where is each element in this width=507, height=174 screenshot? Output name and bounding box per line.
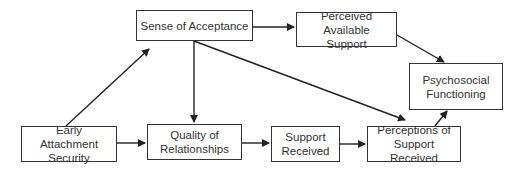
- node-quality-of-relationships: Quality of Relationships: [147, 124, 242, 160]
- node-support-received: Support Received: [271, 126, 340, 162]
- node-label: Sense of Acceptance: [140, 19, 248, 33]
- node-perceptions-of-support-received: Perceptions of Support Received: [367, 126, 461, 162]
- edge-perceived-available-to-psychosocial: [397, 35, 444, 62]
- node-label: Early Attachment Security: [26, 123, 112, 165]
- node-label: Psychosocial Functioning: [418, 73, 494, 101]
- node-psychosocial-functioning: Psychosocial Functioning: [409, 63, 503, 110]
- edge-acceptance-to-perceptions: [194, 41, 405, 120]
- node-label: Quality of Relationships: [155, 128, 235, 156]
- node-label: Perceived Available Support: [303, 9, 390, 51]
- node-perceived-available-support: Perceived Available Support: [296, 12, 397, 47]
- edge-attachment-to-acceptance: [66, 49, 149, 126]
- node-label: Support Received: [276, 130, 335, 158]
- node-early-attachment-security: Early Attachment Security: [21, 126, 117, 162]
- node-label: Perceptions of Support Received: [372, 123, 456, 165]
- node-sense-of-acceptance: Sense of Acceptance: [136, 10, 253, 41]
